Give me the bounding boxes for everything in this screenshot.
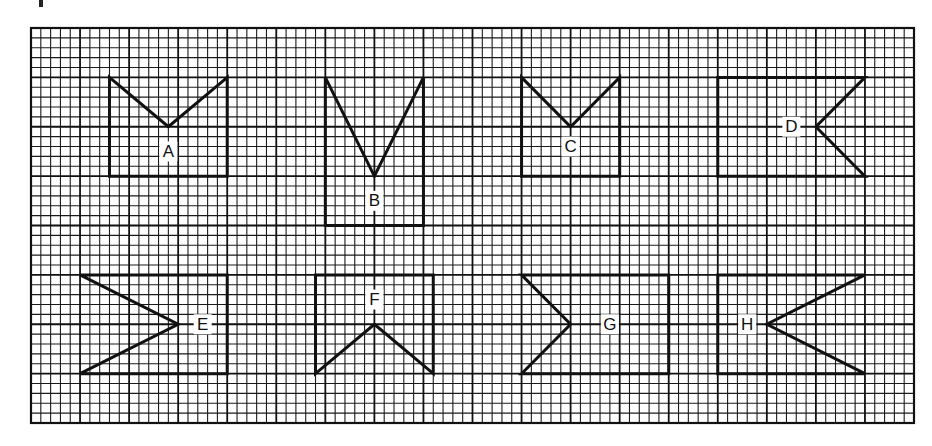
figure-label: D xyxy=(785,117,797,136)
figure-label: H xyxy=(741,315,753,334)
figure-label: G xyxy=(603,315,616,334)
figure-label: C xyxy=(564,137,576,156)
grid-diagram: ABCDEFGH xyxy=(0,0,932,446)
figure-label: E xyxy=(197,315,208,334)
figure-label: A xyxy=(163,142,175,161)
figure-label: F xyxy=(369,290,379,309)
figure-label: B xyxy=(369,191,380,210)
